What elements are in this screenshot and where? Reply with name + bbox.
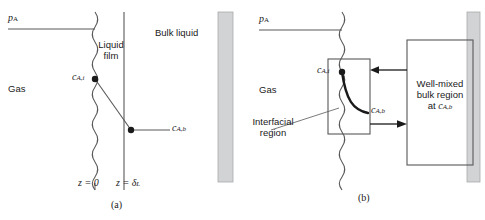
- c-interface-label: cA,i: [317, 64, 329, 76]
- outflow-arrow-head: [397, 120, 407, 127]
- partial-pressure-label: pA: [8, 12, 18, 24]
- concentration-profile-curve: [342, 72, 368, 113]
- panel-b-caption: (b): [358, 192, 370, 203]
- well-mixed-bulk-region-label: Well-mixed bulk region at cA,b: [407, 79, 473, 112]
- well-mixed-label-line3-prefix: at: [428, 100, 439, 111]
- c-bulk-label: cA,b: [371, 104, 385, 116]
- panel-b: pA Gas Interfacial region Well-mixed bul…: [243, 0, 485, 220]
- concentration-profile-line: [95, 79, 131, 130]
- panel-a: pA Gas Liquid film Bulk liquid cA,i cA,b…: [0, 0, 243, 220]
- inflow-arrow-head: [370, 66, 379, 73]
- c-interface-label: cA,i: [72, 71, 84, 83]
- well-mixed-label-line2: bulk region: [407, 90, 473, 101]
- gas-liquid-interface-wavy-line: [92, 12, 97, 190]
- c-interface-dot: [92, 76, 98, 82]
- z-delta-label: z = δL: [116, 177, 140, 189]
- figure-root: pA Gas Liquid film Bulk liquid cA,i cA,b…: [0, 0, 485, 220]
- gas-region-label: Gas: [8, 84, 25, 95]
- wall-bar: [218, 12, 233, 182]
- interfacial-region-label: Interfacial region: [227, 117, 319, 138]
- interfacial-region-label-line2: region: [227, 128, 319, 139]
- c-bulk-label: cA,b: [172, 122, 186, 134]
- liquid-film-label-line2: film: [98, 51, 124, 62]
- gas-liquid-interface-wavy-line: [339, 12, 344, 190]
- z-zero-label: z = 0: [78, 177, 99, 188]
- c-bulk-dot: [128, 127, 134, 133]
- panel-a-caption: (a): [111, 199, 122, 210]
- c-interface-dot: [339, 69, 345, 75]
- well-mixed-label-line3: at cA,b: [407, 100, 473, 112]
- liquid-film-label: Liquid film: [98, 40, 124, 61]
- gas-region-label: Gas: [259, 85, 276, 96]
- bulk-liquid-label: Bulk liquid: [155, 28, 198, 39]
- partial-pressure-label: pA: [259, 13, 269, 25]
